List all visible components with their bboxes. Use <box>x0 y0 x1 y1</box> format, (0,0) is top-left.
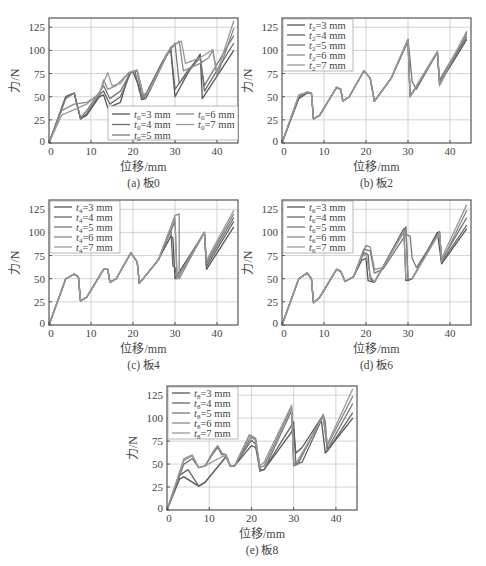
y-axis-label: 力/N <box>126 436 140 460</box>
x-axis-label: 位移/mm <box>239 526 286 541</box>
y-tick-label: 125 <box>147 389 164 401</box>
y-tick-label: 25 <box>152 481 164 493</box>
x-tick-label: 40 <box>330 512 342 524</box>
subfigure-caption: (e) 板8 <box>246 543 279 557</box>
y-tick-label: 75 <box>152 435 164 447</box>
y-tick-label: 100 <box>147 412 164 424</box>
x-tick-label: 0 <box>166 512 172 524</box>
x-tick-label: 30 <box>288 512 300 524</box>
y-tick-label: 0 <box>158 502 164 514</box>
legend: t8=3 mmt8=4 mmt8=5 mmt8=6 mmt8=7 mm <box>168 387 238 441</box>
x-tick-label: 10 <box>204 512 216 524</box>
x-tick-label: 20 <box>246 512 258 524</box>
chart-panel-e: 0102030400255075100125位移/mm力/N(e) 板8t8=3… <box>0 0 486 566</box>
y-tick-label: 50 <box>152 458 164 470</box>
chart-svg-e: 0102030400255075100125位移/mm力/N(e) 板8t8=3… <box>0 0 486 566</box>
